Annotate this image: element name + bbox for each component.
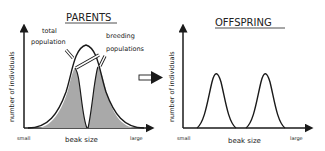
label-populations: populations [106,45,145,53]
transition-arrow-icon [139,71,163,84]
parents-xlabel: beak size [65,136,98,144]
offspring-xlabel: beak size [228,137,261,145]
offspring-x-large: large [290,135,303,142]
offspring-curve-large [246,74,285,128]
total-population-curve [28,45,144,128]
total-pointer-inner [66,50,73,58]
label-breeding: breeding [106,32,135,40]
breeding-pointer-inner-1 [76,55,99,68]
offspring-ylabel: number of individuals [168,51,176,122]
parents-ylabel: number of individuals [8,51,16,122]
offspring-title: OFFSPRING [215,17,272,28]
breeding-population-small [36,68,87,128]
label-total: total [42,27,57,35]
label-population: population [31,38,66,46]
parents-title: PARENTS [66,12,111,23]
offspring-curve-small [197,74,236,128]
parents-x-small: small [17,135,30,141]
offspring-x-small: small [177,135,190,141]
offspring-panel: OFFSPRING number of individuals beak siz… [168,17,309,145]
parents-panel: PARENTS total population breeding popula… [8,12,150,144]
diagram: PARENTS total population breeding popula… [0,0,325,151]
parents-x-large: large [130,135,143,142]
